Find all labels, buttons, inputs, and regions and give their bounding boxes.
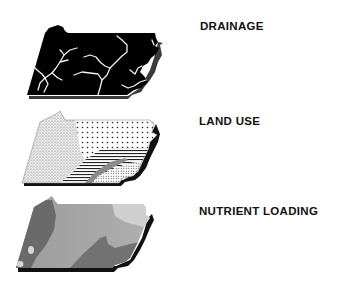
land-use-label: LAND USE (199, 115, 260, 127)
drainage-label: DRAINAGE (200, 20, 264, 32)
nutrient-loading-label: NUTRIENT LOADING (199, 205, 318, 217)
nutrient-loading-map (0, 0, 190, 287)
